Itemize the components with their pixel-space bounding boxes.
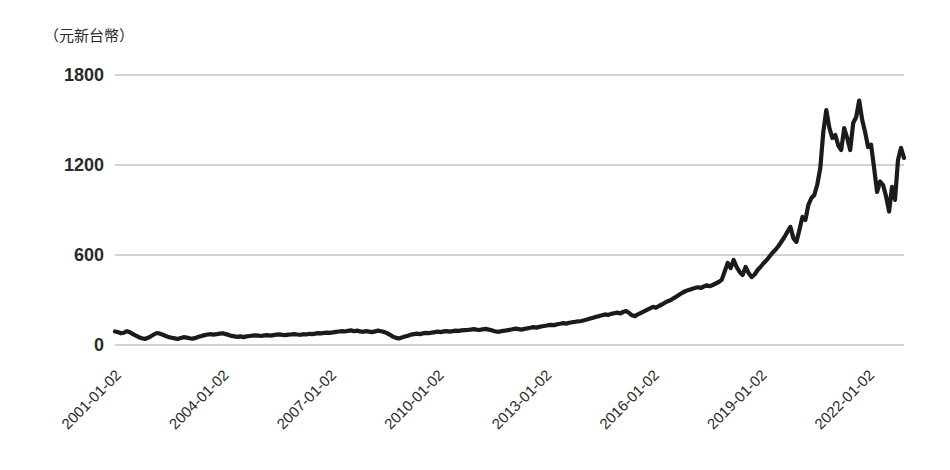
x-tick-label: 2001-01-02 [58, 366, 124, 432]
gridlines [115, 75, 904, 345]
chart-canvas: （元新台幣） 0600120018002001-01-022004-01-022… [0, 0, 950, 470]
y-axis-unit-label: （元新台幣） [44, 24, 134, 45]
price-line-series [115, 101, 904, 340]
y-tick-label: 1200 [64, 155, 104, 175]
x-tick-label: 2010-01-02 [381, 366, 447, 432]
y-tick-label: 1800 [64, 65, 104, 85]
y-axis-tick-labels: 060012001800 [64, 65, 104, 355]
y-tick-label: 0 [94, 335, 104, 355]
y-tick-label: 600 [74, 245, 104, 265]
x-tick-label: 2013-01-02 [488, 366, 554, 432]
x-tick-label: 2019-01-02 [703, 366, 769, 432]
price-line-chart: 0600120018002001-01-022004-01-022007-01-… [0, 0, 950, 470]
x-tick-label: 2016-01-02 [596, 366, 662, 432]
x-tick-label: 2022-01-02 [811, 366, 877, 432]
x-axis-tick-labels: 2001-01-022004-01-022007-01-022010-01-02… [58, 366, 877, 432]
x-tick-label: 2004-01-02 [165, 366, 231, 432]
x-tick-label: 2007-01-02 [273, 366, 339, 432]
